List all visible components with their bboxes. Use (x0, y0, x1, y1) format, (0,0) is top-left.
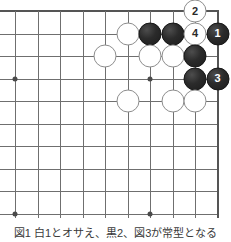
star-point (13, 76, 18, 81)
move-number-label: 3 (214, 73, 220, 84)
diagram-caption: 図1 白1とオサえ、黒2、図3が常型となる (0, 224, 231, 242)
move-number-label: 1 (214, 28, 220, 39)
stone-white[interactable] (116, 22, 139, 45)
stone-white[interactable] (94, 45, 117, 68)
grid-line-horizontal (0, 146, 219, 147)
grid-line-vertical (105, 11, 106, 218)
star-point (13, 211, 18, 216)
grid-line-horizontal (0, 191, 219, 192)
grid-line-horizontal (0, 214, 219, 215)
stone-white[interactable] (161, 45, 184, 68)
stone-black[interactable] (139, 22, 162, 45)
go-board[interactable]: 4123 (0, 0, 231, 224)
stone-white[interactable] (139, 45, 162, 68)
grid-line-vertical (60, 11, 61, 218)
grid-line-horizontal (0, 124, 219, 125)
grid-line-vertical (38, 11, 39, 218)
stone-black[interactable] (184, 67, 207, 90)
move-stone-2[interactable]: 2 (184, 0, 207, 23)
stone-white[interactable] (184, 90, 207, 113)
stone-white[interactable] (116, 90, 139, 113)
grid-line-vertical (15, 11, 16, 218)
move-number-label: 4 (192, 28, 198, 39)
star-point (148, 76, 153, 81)
go-diagram-screenshot: 4123 図1 白1とオサえ、黒2、図3が常型となる (0, 0, 231, 242)
star-point (148, 211, 153, 216)
move-stone-3[interactable]: 3 (206, 67, 229, 90)
stone-black[interactable] (184, 45, 207, 68)
grid-line-horizontal (0, 169, 219, 170)
move-number-label: 2 (192, 5, 198, 16)
stone-black[interactable] (161, 22, 184, 45)
move-stone-1[interactable]: 1 (206, 22, 229, 45)
move-stone-4[interactable]: 4 (184, 22, 207, 45)
grid-line-vertical (83, 11, 84, 218)
stone-white[interactable] (161, 90, 184, 113)
